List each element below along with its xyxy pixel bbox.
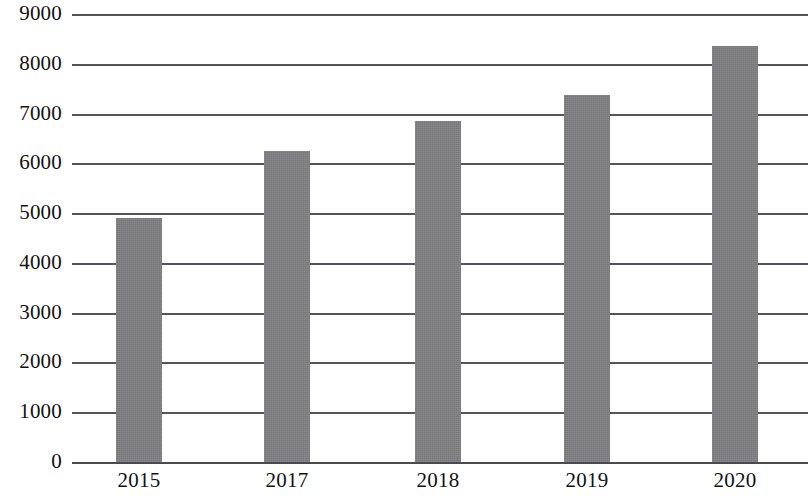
bar-2015: [116, 218, 162, 462]
y-tick-label-0: 0: [0, 451, 62, 472]
x-tick-label-2018: 2018: [378, 470, 498, 491]
x-tick-label-2020: 2020: [675, 470, 795, 491]
y-tick-label-7000: 7000: [0, 103, 62, 124]
y-tick-label-6000: 6000: [0, 152, 62, 173]
y-tick-label-9000: 9000: [0, 3, 62, 24]
y-tick-label-2000: 2000: [0, 351, 62, 372]
x-tick-label-2017: 2017: [227, 470, 347, 491]
bar-2017: [264, 151, 310, 462]
bar-2018: [415, 121, 461, 462]
bars-layer: [72, 14, 808, 462]
y-tick-label-3000: 3000: [0, 302, 62, 323]
y-tick-label-1000: 1000: [0, 401, 62, 422]
y-tick-label-5000: 5000: [0, 202, 62, 223]
bar-2020: [712, 46, 758, 462]
x-tick-label-2019: 2019: [527, 470, 647, 491]
x-tick-label-2015: 2015: [79, 470, 199, 491]
y-tick-label-8000: 8000: [0, 53, 62, 74]
bar-2019: [564, 95, 610, 462]
gridline-0: [72, 462, 808, 464]
bar-chart: 0100020003000400050006000700080009000 20…: [0, 0, 808, 498]
plot-area: [72, 14, 808, 462]
y-tick-label-4000: 4000: [0, 252, 62, 273]
